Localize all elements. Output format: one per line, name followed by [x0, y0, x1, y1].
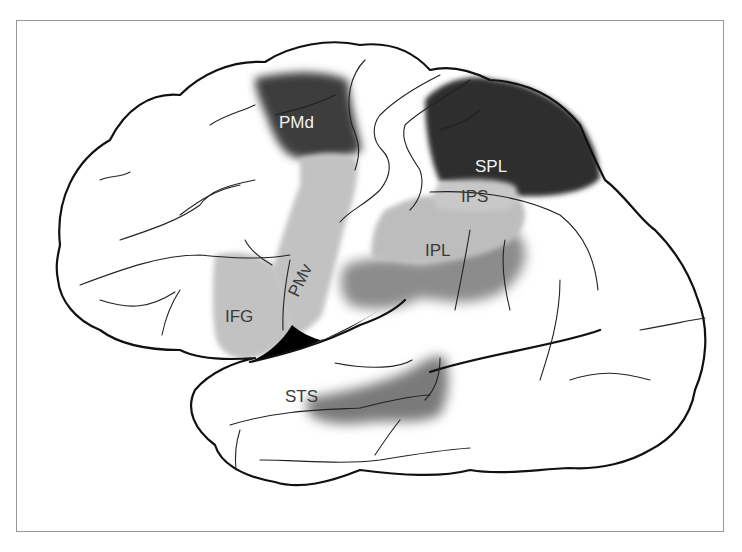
label-sts: STS — [285, 387, 318, 406]
brain-diagram: PMd SPL IPS IPL PMv IFG STS — [0, 0, 742, 552]
label-ipl: IPL — [425, 241, 451, 260]
label-ips: IPS — [461, 187, 488, 206]
label-ifg: IFG — [225, 307, 253, 326]
label-spl: SPL — [475, 157, 507, 176]
label-pmd: PMd — [279, 113, 314, 132]
region-spl — [425, 77, 600, 196]
